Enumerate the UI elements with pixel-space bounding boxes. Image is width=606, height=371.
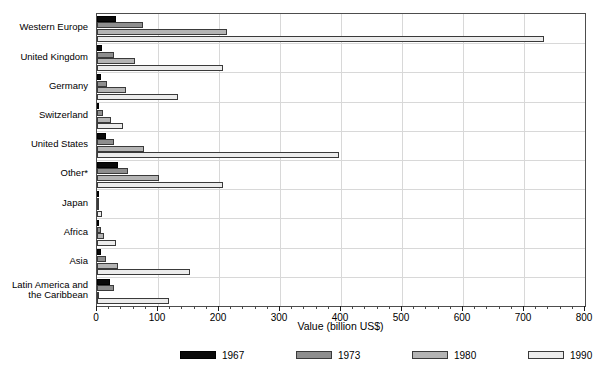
legend-swatch bbox=[180, 351, 216, 359]
bar bbox=[97, 52, 114, 58]
category-label: Africa bbox=[0, 227, 88, 238]
x-tick-minor bbox=[352, 306, 353, 309]
x-tick-major bbox=[462, 306, 463, 311]
bar bbox=[97, 22, 143, 28]
legend-label: 1967 bbox=[222, 350, 244, 361]
x-tick-minor bbox=[108, 306, 109, 309]
category-label: Other* bbox=[0, 168, 88, 179]
x-tick-minor bbox=[169, 306, 170, 309]
x-tick-minor bbox=[206, 306, 207, 309]
bar bbox=[97, 175, 159, 181]
x-tick-minor bbox=[572, 306, 573, 309]
bar bbox=[97, 204, 99, 210]
x-tick-minor bbox=[413, 306, 414, 309]
legend-label: 1990 bbox=[570, 350, 592, 361]
gridline-horizontal bbox=[97, 218, 585, 219]
x-tick-major bbox=[157, 306, 158, 311]
x-tick-minor bbox=[425, 306, 426, 309]
x-tick-minor bbox=[194, 306, 195, 309]
gridline-horizontal bbox=[97, 160, 585, 161]
x-tick-major bbox=[340, 306, 341, 311]
bar bbox=[97, 139, 114, 145]
x-tick-minor bbox=[328, 306, 329, 309]
bar bbox=[97, 16, 116, 22]
x-tick-minor bbox=[389, 306, 390, 309]
bar bbox=[97, 29, 227, 35]
bar bbox=[97, 45, 102, 51]
bar bbox=[97, 269, 190, 275]
x-tick-minor bbox=[181, 306, 182, 309]
category-label: Switzerland bbox=[0, 110, 88, 121]
bar bbox=[97, 227, 101, 233]
bar bbox=[97, 256, 106, 262]
legend-item[interactable]: 1980 bbox=[412, 348, 476, 362]
x-tick-minor bbox=[255, 306, 256, 309]
x-tick-minor bbox=[267, 306, 268, 309]
x-tick-major bbox=[584, 306, 585, 311]
category-label: Asia bbox=[0, 256, 88, 267]
bar bbox=[97, 87, 126, 93]
x-tick-minor bbox=[303, 306, 304, 309]
x-tick-minor bbox=[547, 306, 548, 309]
category-axis-labels: Western EuropeUnited KingdomGermanySwitz… bbox=[0, 13, 92, 305]
plot-inner bbox=[97, 14, 585, 306]
x-tick-minor bbox=[230, 306, 231, 309]
legend-item[interactable]: 1990 bbox=[528, 348, 592, 362]
bar bbox=[97, 123, 123, 129]
bar bbox=[97, 110, 103, 116]
bar bbox=[97, 133, 106, 139]
bar bbox=[97, 292, 99, 298]
x-tick-minor bbox=[560, 306, 561, 309]
chart-legend: 1967197319801990 bbox=[96, 348, 585, 364]
bar bbox=[97, 298, 169, 304]
bar bbox=[97, 162, 118, 168]
category-label: Germany bbox=[0, 81, 88, 92]
x-tick-minor bbox=[474, 306, 475, 309]
x-tick-minor bbox=[145, 306, 146, 309]
gridline-horizontal bbox=[97, 277, 585, 278]
bar bbox=[97, 191, 99, 197]
x-tick-minor bbox=[364, 306, 365, 309]
bar bbox=[97, 168, 128, 174]
x-tick-major bbox=[96, 306, 97, 311]
bar bbox=[97, 263, 118, 269]
bar bbox=[97, 198, 99, 204]
gridline-horizontal bbox=[97, 131, 585, 132]
category-label: Latin America and the Caribbean bbox=[0, 280, 88, 301]
legend-label: 1980 bbox=[454, 350, 476, 361]
x-tick-minor bbox=[535, 306, 536, 309]
gridline-horizontal bbox=[97, 189, 585, 190]
x-tick-major bbox=[218, 306, 219, 311]
legend-item[interactable]: 1967 bbox=[180, 348, 244, 362]
legend-item[interactable]: 1973 bbox=[296, 348, 360, 362]
gridline-horizontal bbox=[97, 248, 585, 249]
bar bbox=[97, 94, 178, 100]
bar bbox=[97, 211, 102, 217]
gridline-horizontal bbox=[97, 72, 585, 73]
bar bbox=[97, 81, 107, 87]
bar bbox=[97, 146, 144, 152]
bar bbox=[97, 152, 339, 158]
x-tick-minor bbox=[450, 306, 451, 309]
bar bbox=[97, 103, 99, 109]
gridline-horizontal bbox=[97, 43, 585, 44]
x-tick-minor bbox=[486, 306, 487, 309]
bar bbox=[97, 74, 101, 80]
x-tick-minor bbox=[511, 306, 512, 309]
x-axis-label: Value (billion US$) bbox=[96, 320, 585, 332]
legend-swatch bbox=[412, 351, 448, 359]
bar bbox=[97, 279, 110, 285]
plot-area bbox=[96, 13, 586, 307]
bar bbox=[97, 220, 99, 226]
bar bbox=[97, 240, 116, 246]
bar bbox=[97, 117, 111, 123]
bar bbox=[97, 36, 544, 42]
x-tick-minor bbox=[316, 306, 317, 309]
bar bbox=[97, 233, 104, 239]
category-label: United States bbox=[0, 139, 88, 150]
bar bbox=[97, 58, 135, 64]
legend-label: 1973 bbox=[338, 350, 360, 361]
category-label: Japan bbox=[0, 198, 88, 209]
gridline-horizontal bbox=[97, 102, 585, 103]
x-tick-major bbox=[401, 306, 402, 311]
